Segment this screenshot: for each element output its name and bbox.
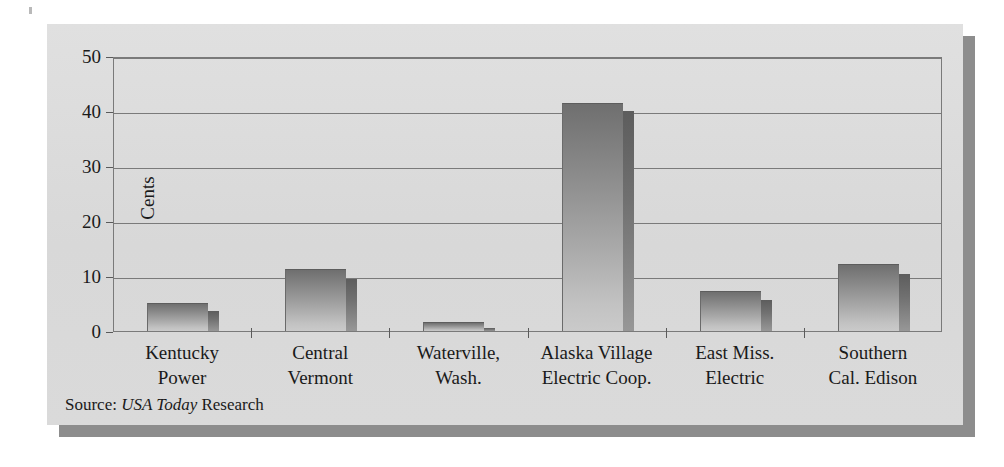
bar-group: [838, 264, 910, 331]
x-category-label-line: East Miss.: [666, 340, 804, 365]
y-tick-label: 50: [82, 46, 101, 68]
scan-artifact-speck: [29, 7, 32, 14]
bar-group: [147, 303, 219, 331]
x-category-label: Alaska VillageElectric Coop.: [528, 340, 666, 390]
bar-front-face: [700, 291, 761, 331]
y-tick-label: 10: [82, 266, 101, 288]
bar-front-face: [562, 103, 623, 331]
bar-side-face: [484, 328, 495, 331]
y-tick-label: 20: [82, 211, 101, 233]
bar-front-face: [147, 303, 208, 331]
plot-area: [113, 57, 942, 332]
x-category-label-line: Southern: [804, 340, 942, 365]
x-category-label-line: Alaska Village: [528, 340, 666, 365]
x-tick-mark: [528, 328, 529, 338]
x-category-label-line: Electric: [666, 365, 804, 390]
source-suffix: Research: [201, 395, 263, 414]
gridline: [114, 223, 941, 224]
x-tick-mark: [666, 328, 667, 338]
source-publication: USA Today: [121, 395, 197, 414]
x-category-label: KentuckyPower: [113, 340, 251, 390]
y-tick-mark: [106, 222, 113, 223]
x-category-label-line: Wash.: [389, 365, 527, 390]
y-tick-mark: [106, 112, 113, 113]
x-category-label: Waterville,Wash.: [389, 340, 527, 390]
y-tick-mark: [106, 332, 113, 333]
x-category-label: SouthernCal. Edison: [804, 340, 942, 390]
x-category-label-line: Electric Coop.: [528, 365, 666, 390]
bar-side-face: [208, 311, 219, 331]
chart-figure: Cents 01020304050 KentuckyPowerCentralVe…: [47, 24, 963, 425]
x-category-label-line: Kentucky: [113, 340, 251, 365]
gridline: [114, 278, 941, 279]
y-tick-label: 30: [82, 156, 101, 178]
source-prefix: Source:: [65, 395, 117, 414]
x-category-label-line: Cal. Edison: [804, 365, 942, 390]
bar-group: [423, 322, 495, 331]
y-tick-label: 0: [92, 321, 102, 343]
bar-group: [285, 269, 357, 331]
x-tick-mark: [804, 328, 805, 338]
x-category-label: CentralVermont: [251, 340, 389, 390]
bar-front-face: [285, 269, 346, 331]
bar-side-face: [761, 300, 772, 331]
figure-panel: Cents 01020304050 KentuckyPowerCentralVe…: [47, 24, 963, 425]
gridline: [114, 58, 941, 59]
bar-side-face: [623, 111, 634, 331]
x-axis-labels: KentuckyPowerCentralVermontWaterville,Wa…: [113, 340, 942, 396]
y-tick-mark: [106, 57, 113, 58]
gridline: [114, 168, 941, 169]
bar-side-face: [899, 274, 910, 331]
x-category-label: East Miss.Electric: [666, 340, 804, 390]
bar-front-face: [838, 264, 899, 331]
x-tick-mark: [389, 328, 390, 338]
x-category-label-line: Vermont: [251, 365, 389, 390]
source-note: Source: USA Today Research: [65, 395, 264, 415]
bar-group: [562, 103, 634, 331]
x-category-label-line: Waterville,: [389, 340, 527, 365]
bar-group: [700, 291, 772, 331]
y-tick-label: 40: [82, 101, 101, 123]
y-tick-mark: [106, 277, 113, 278]
y-tick-mark: [106, 167, 113, 168]
x-category-label-line: Central: [251, 340, 389, 365]
gridline: [114, 113, 941, 114]
x-tick-mark: [251, 328, 252, 338]
x-category-label-line: Power: [113, 365, 251, 390]
bar-front-face: [423, 322, 484, 331]
bar-side-face: [346, 279, 357, 331]
